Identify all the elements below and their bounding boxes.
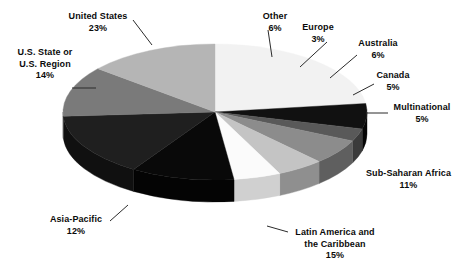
slice-label-name-line2: U.S. Region (19, 59, 71, 69)
slice-label-canada: Canada 5% (371, 70, 415, 93)
slice-label-percent: 15% (283, 250, 387, 262)
slice-label-latin-america-and-the-caribbean: Latin America and the Caribbean 15% (283, 227, 387, 262)
slice-label-percent: 3% (298, 34, 338, 46)
slice-label-percent: 23% (55, 23, 141, 35)
slice-label-us-state-or-us-region: U.S. State or U.S. Region 14% (6, 47, 84, 82)
slice-label-name-line2: the Caribbean (304, 239, 365, 249)
pie-chart: United States 23% U.S. State or U.S. Reg… (0, 0, 459, 274)
pie-top-faces (63, 44, 367, 180)
slice-label-name: Europe (302, 22, 334, 32)
slice-label-name: Canada (376, 70, 409, 80)
slice-label-percent: 5% (371, 82, 415, 94)
slice-label-name-line1: Latin America and (295, 227, 374, 237)
slice-label-asia-pacific: Asia-Pacific 12% (38, 214, 114, 237)
slice-label-name: United States (69, 11, 128, 21)
slice-label-percent: 12% (38, 226, 114, 238)
slice-label-name-line1: U.S. State or (18, 47, 73, 57)
slice-label-percent: 6% (352, 50, 404, 62)
slice-label-name: Australia (358, 38, 397, 48)
slice-label-name: Multinational (394, 102, 451, 112)
slice-label-united-states: United States 23% (55, 11, 141, 34)
pie-slice-united-states (215, 44, 366, 112)
slice-label-multinational: Multinational 5% (387, 102, 457, 125)
slice-label-percent: 14% (6, 70, 84, 82)
slice-label-percent: 5% (387, 114, 457, 126)
slice-label-name: Asia-Pacific (50, 214, 102, 224)
slice-label-percent: 6% (258, 23, 292, 35)
slice-label-australia: Australia 6% (352, 38, 404, 61)
slice-label-percent: 11% (360, 180, 457, 192)
slice-label-sub-saharan-africa: Sub-Saharan Africa 11% (360, 168, 457, 191)
slice-label-name: Sub-Saharan Africa (366, 168, 451, 178)
slice-label-other: Other 6% (258, 11, 292, 34)
slice-label-europe: Europe 3% (298, 22, 338, 45)
slice-label-name: Other (263, 11, 288, 21)
